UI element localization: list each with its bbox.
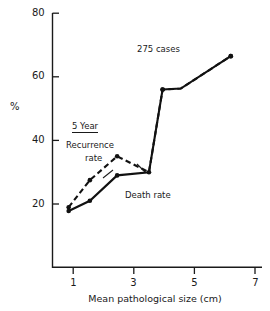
x-axis-ticks xyxy=(73,267,255,274)
data-point xyxy=(160,87,165,92)
data-point xyxy=(147,170,152,175)
plot-canvas xyxy=(0,0,270,311)
data-point xyxy=(66,209,71,214)
x-tick-label-5: 5 xyxy=(188,277,201,288)
data-point xyxy=(115,154,120,159)
x-tick-label-7: 7 xyxy=(249,277,262,288)
annotation-leader-lines xyxy=(103,164,145,178)
recurrence-rate-annotation-line1: Recurrence xyxy=(66,140,114,150)
y-tick-label-80: 80 xyxy=(32,7,45,18)
x-axis-title: Mean pathological size (cm) xyxy=(55,293,255,304)
y-axis-ticks xyxy=(53,13,60,204)
cases-count-annotation: 275 cases xyxy=(137,44,180,54)
data-point xyxy=(228,54,233,59)
five-year-annotation: 5 Year xyxy=(72,121,98,131)
chart-figure: 80 60 40 20 % 1 3 5 7 Mean pathological … xyxy=(0,0,270,311)
death-rate-annotation: Death rate xyxy=(125,190,171,200)
y-tick-label-20: 20 xyxy=(32,198,45,209)
x-tick-label-1: 1 xyxy=(67,277,80,288)
y-axis-title: % xyxy=(10,101,20,112)
x-tick-label-3: 3 xyxy=(127,277,140,288)
data-point xyxy=(88,178,93,183)
recurrence-rate-annotation-line2: rate xyxy=(85,153,102,163)
data-point xyxy=(115,173,120,178)
data-point xyxy=(88,199,93,204)
y-tick-label-60: 60 xyxy=(32,70,45,81)
y-tick-label-40: 40 xyxy=(32,134,45,145)
five-year-text: 5 Year xyxy=(72,121,98,133)
